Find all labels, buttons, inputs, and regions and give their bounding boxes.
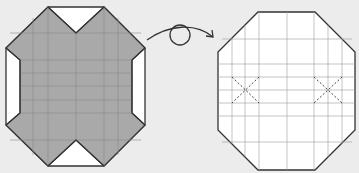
left-model-octagon [6,7,145,166]
right-model-octagon [218,12,355,170]
turn-over-arrow-icon [147,25,213,45]
origami-diagram [0,0,359,173]
